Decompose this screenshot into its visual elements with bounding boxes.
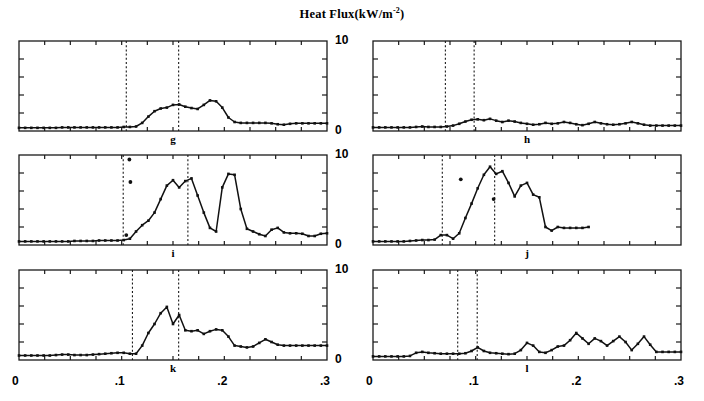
data-point xyxy=(489,165,492,168)
data-point xyxy=(252,230,255,233)
data-point xyxy=(264,122,267,125)
data-point xyxy=(203,333,206,336)
data-point xyxy=(674,351,677,354)
data-point xyxy=(153,110,156,113)
heat-flux-figure: Heat Flux(kW/m-2) ghijkl1001001000.1.2.3… xyxy=(0,0,704,401)
data-point xyxy=(464,352,467,355)
data-point xyxy=(283,344,286,347)
panel-label-k: k xyxy=(163,362,183,374)
x-axis-tick-label: 0 xyxy=(366,374,373,388)
data-point xyxy=(427,239,430,242)
data-point xyxy=(215,328,218,331)
data-point xyxy=(630,349,633,352)
data-point xyxy=(427,352,430,355)
data-point xyxy=(409,355,412,358)
data-point xyxy=(172,323,175,326)
data-point xyxy=(452,124,455,127)
data-point xyxy=(135,230,138,233)
data-point xyxy=(544,352,547,355)
data-point xyxy=(153,211,156,214)
data-point xyxy=(470,350,473,353)
panel-label-i: i xyxy=(163,247,183,259)
data-point xyxy=(520,122,523,125)
data-point xyxy=(276,343,279,346)
data-point xyxy=(655,124,658,127)
data-point xyxy=(409,126,412,129)
data-point xyxy=(92,353,95,356)
data-point xyxy=(270,341,273,344)
data-point xyxy=(489,118,492,121)
data-point xyxy=(618,335,621,338)
data-trace-i xyxy=(19,174,327,242)
panel-label-g: g xyxy=(163,133,183,145)
data-point xyxy=(575,227,578,230)
data-point xyxy=(501,170,504,173)
x-axis-tick-label: .3 xyxy=(674,374,684,388)
data-point xyxy=(526,182,529,185)
asterisk-marker xyxy=(128,180,132,184)
data-point xyxy=(538,123,541,126)
data-point xyxy=(61,353,64,356)
data-point xyxy=(153,323,156,326)
data-point xyxy=(439,126,442,129)
data-trace-l xyxy=(373,333,681,356)
data-point xyxy=(233,174,236,177)
panel-k xyxy=(18,270,329,360)
data-point xyxy=(239,208,242,211)
data-point xyxy=(661,124,664,127)
data-point xyxy=(320,232,323,235)
data-point xyxy=(221,329,224,332)
data-point xyxy=(433,238,436,241)
panel-label-j: j xyxy=(517,247,537,259)
data-point xyxy=(141,224,144,227)
data-point xyxy=(513,120,516,123)
data-point xyxy=(501,352,504,355)
data-point xyxy=(276,227,279,230)
data-point xyxy=(258,233,261,236)
data-point xyxy=(532,123,535,126)
data-point xyxy=(415,352,418,355)
data-point xyxy=(403,240,406,243)
data-point xyxy=(470,202,473,205)
data-point xyxy=(221,106,224,109)
data-point xyxy=(129,126,132,129)
data-point xyxy=(55,127,58,130)
data-point xyxy=(624,341,627,344)
data-point xyxy=(569,122,572,125)
data-point xyxy=(110,239,113,242)
data-point xyxy=(421,351,424,354)
data-point xyxy=(507,182,510,185)
data-point xyxy=(612,340,615,343)
data-point xyxy=(637,122,640,125)
data-point xyxy=(446,234,449,237)
data-point xyxy=(544,226,547,229)
data-point xyxy=(396,240,399,243)
data-point xyxy=(415,239,418,242)
data-point xyxy=(439,234,442,237)
data-point xyxy=(104,126,107,129)
data-point xyxy=(661,351,664,354)
panel-j xyxy=(372,155,681,245)
data-point xyxy=(470,118,473,121)
x-axis-tick-label: .1 xyxy=(469,374,479,388)
data-point xyxy=(61,126,64,129)
data-point xyxy=(239,345,242,348)
data-point xyxy=(415,126,418,129)
data-point xyxy=(433,352,436,355)
data-point xyxy=(227,335,230,338)
data-point xyxy=(159,107,162,110)
data-point xyxy=(526,123,529,126)
data-point xyxy=(73,126,76,129)
data-point xyxy=(403,126,406,129)
data-point xyxy=(129,237,132,240)
data-point xyxy=(307,344,310,347)
data-point xyxy=(122,239,125,242)
data-point xyxy=(283,231,286,234)
data-point xyxy=(301,122,304,125)
data-point xyxy=(196,329,199,332)
panel-l xyxy=(372,270,683,360)
data-point xyxy=(289,123,292,126)
data-point xyxy=(433,126,436,129)
data-point xyxy=(618,123,621,126)
data-point xyxy=(372,240,375,243)
